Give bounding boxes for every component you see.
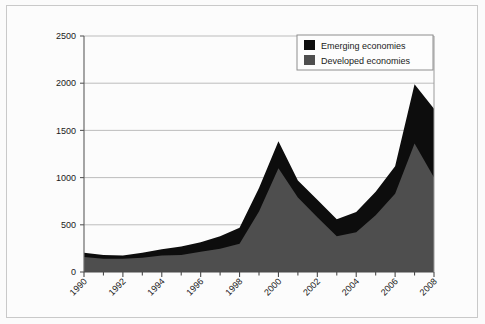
x-tick-label-1992: 1992 (107, 276, 128, 297)
legend-swatch-developed-economies (304, 55, 315, 65)
y-tick-label-1500: 1500 (56, 126, 76, 136)
legend[interactable]: Emerging economies Developed economies (297, 35, 433, 70)
y-tick-label-2500: 2500 (56, 31, 76, 41)
x-tick-label-2002: 2002 (301, 276, 322, 297)
x-tick-label-1998: 1998 (223, 276, 244, 297)
legend-label-developed-economies: Developed economies (321, 56, 411, 66)
x-tick-label-2006: 2006 (379, 276, 400, 297)
y-axis: 05001000150020002500 (56, 31, 84, 277)
y-tick-label-0: 0 (71, 267, 76, 277)
y-tick-label-1000: 1000 (56, 173, 76, 183)
x-tick-label-2004: 2004 (340, 276, 361, 297)
x-tick-label-1990: 1990 (68, 276, 89, 297)
y-tick-label-500: 500 (61, 220, 76, 230)
x-tick-label-1996: 1996 (184, 276, 205, 297)
stacked-area-chart: 05001000150020002500 1990199219941996199… (0, 0, 485, 324)
y-tick-label-2000: 2000 (56, 78, 76, 88)
x-tick-label-2000: 2000 (262, 276, 283, 297)
x-tick-label-1994: 1994 (145, 276, 166, 297)
x-tick-label-2008: 2008 (418, 276, 439, 297)
figure-container: 05001000150020002500 1990199219941996199… (0, 0, 485, 324)
legend-swatch-emerging-economies (304, 40, 315, 50)
x-axis: 1990199219941996199820002002200420062008 (68, 272, 439, 298)
legend-label-emerging-economies: Emerging economies (321, 41, 406, 51)
